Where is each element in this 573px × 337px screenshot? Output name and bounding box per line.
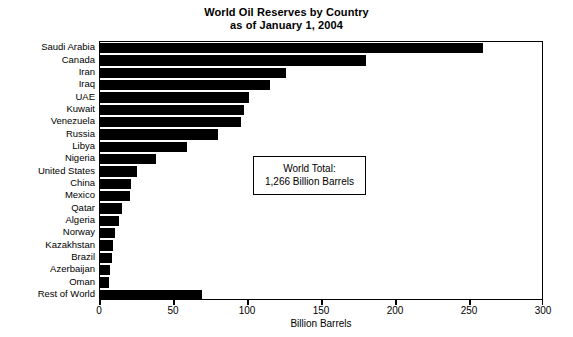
value-axis-title: Billion Barrels xyxy=(99,318,543,329)
bar-fill xyxy=(100,203,122,213)
bar xyxy=(100,290,202,300)
bar xyxy=(100,277,109,287)
category-label: Venezuela xyxy=(0,116,95,126)
chart-title-line-1: World Oil Reserves by Country xyxy=(0,6,573,19)
category-label: Kazakhstan xyxy=(0,240,95,250)
bar xyxy=(100,105,244,115)
bar-fill xyxy=(100,105,244,115)
bar xyxy=(100,117,241,127)
bar-fill xyxy=(100,92,249,102)
bar-fill xyxy=(100,142,187,152)
bar-fill xyxy=(100,154,156,164)
bar-fill xyxy=(100,191,130,201)
x-axis-tick-label: 0 xyxy=(96,305,102,317)
bar xyxy=(100,129,218,139)
bar-fill xyxy=(100,228,115,238)
x-axis-tick-label: 150 xyxy=(313,305,330,317)
bar-fill xyxy=(100,179,131,189)
bar-fill xyxy=(100,290,202,300)
category-label: Mexico xyxy=(0,190,95,200)
category-label: Kuwait xyxy=(0,104,95,114)
bar-fill xyxy=(100,240,113,250)
bar xyxy=(100,265,110,275)
category-axis-labels: Saudi ArabiaCanadaIranIraqUAEKuwaitVenez… xyxy=(0,41,95,300)
category-label: Algeria xyxy=(0,215,95,225)
chart-title-line-2: as of January 1, 2004 xyxy=(0,19,573,32)
category-label: Rest of World xyxy=(0,289,95,299)
world-total-value: 1,266 Billion Barrels xyxy=(265,175,354,188)
category-label: Oman xyxy=(0,277,95,287)
world-total-label: World Total: xyxy=(265,162,354,175)
bar xyxy=(100,142,187,152)
bar-fill xyxy=(100,129,218,139)
category-label: Azerbaijan xyxy=(0,264,95,274)
category-label: Nigeria xyxy=(0,153,95,163)
category-label: Saudi Arabia xyxy=(0,42,95,52)
bar xyxy=(100,92,249,102)
bar-fill xyxy=(100,55,366,65)
bar-fill xyxy=(100,216,119,226)
bar-fill xyxy=(100,43,483,53)
bar xyxy=(100,55,366,65)
bar-fill xyxy=(100,68,286,78)
bar xyxy=(100,253,112,263)
world-total-annotation: World Total: 1,266 Billion Barrels xyxy=(253,156,366,195)
value-axis: 050100150200250300 xyxy=(99,300,543,320)
oil-reserves-bar-chart: World Oil Reserves by Country as of Janu… xyxy=(0,0,573,337)
x-axis-tick-label: 250 xyxy=(461,305,478,317)
bar-fill xyxy=(100,253,112,263)
x-axis-tick-label: 300 xyxy=(535,305,552,317)
bar xyxy=(100,166,137,176)
bar xyxy=(100,43,483,53)
bar-fill xyxy=(100,265,110,275)
category-label: UAE xyxy=(0,92,95,102)
bar-fill xyxy=(100,166,137,176)
category-label: Russia xyxy=(0,129,95,139)
category-label: Libya xyxy=(0,141,95,151)
category-label: Iraq xyxy=(0,79,95,89)
bar-fill xyxy=(100,117,241,127)
bar-fill xyxy=(100,277,109,287)
category-label: China xyxy=(0,178,95,188)
category-label: Brazil xyxy=(0,252,95,262)
bar xyxy=(100,154,156,164)
category-label: Qatar xyxy=(0,203,95,213)
bar xyxy=(100,68,286,78)
x-axis-tick-label: 50 xyxy=(167,305,178,317)
x-axis-tick-label: 200 xyxy=(387,305,404,317)
bar xyxy=(100,203,122,213)
category-label: Norway xyxy=(0,227,95,237)
bar xyxy=(100,191,130,201)
bar-fill xyxy=(100,80,270,90)
bar xyxy=(100,80,270,90)
category-label: Canada xyxy=(0,55,95,65)
category-label: United States xyxy=(0,166,95,176)
bar xyxy=(100,179,131,189)
bar xyxy=(100,240,113,250)
category-label: Iran xyxy=(0,67,95,77)
bar xyxy=(100,228,115,238)
chart-title: World Oil Reserves by Country as of Janu… xyxy=(0,6,573,32)
bar xyxy=(100,216,119,226)
x-axis-tick-label: 100 xyxy=(239,305,256,317)
